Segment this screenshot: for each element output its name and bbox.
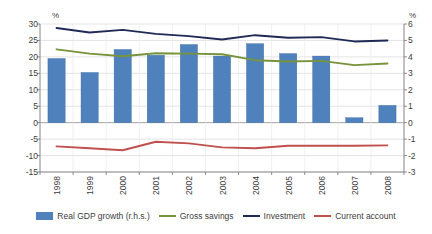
x-axis-tick-1999: 1999 xyxy=(85,176,95,195)
legend-line-swatch-icon xyxy=(314,215,331,217)
bar-2003 xyxy=(213,56,230,123)
legend-label: Real GDP growth (r.h.s.) xyxy=(57,211,149,221)
legend-label: Investment xyxy=(264,211,306,221)
legend-line-swatch-icon xyxy=(243,215,260,217)
legend-item-investment[interactable]: Investment xyxy=(243,211,306,221)
y2-axis-tick-6: 6 xyxy=(408,20,430,28)
y2-axis-tick-1: 1 xyxy=(408,102,430,110)
chart-plot-area xyxy=(0,0,432,234)
bar-1999 xyxy=(81,73,98,123)
x-axis-tick-2001: 2001 xyxy=(151,176,161,195)
legend-item-current-account[interactable]: Current account xyxy=(314,211,395,221)
x-axis-tick-2003: 2003 xyxy=(218,176,228,195)
legend-item-gross-savings[interactable]: Gross savings xyxy=(159,211,234,221)
bar-2000 xyxy=(114,49,131,122)
bar-series-real-gdp-growth xyxy=(48,44,396,123)
x-axis-tick-2007: 2007 xyxy=(350,176,360,195)
y2-axis-tick-3: 3 xyxy=(408,69,430,77)
x-axis-tick-2004: 2004 xyxy=(251,176,261,195)
y-axis-tick-neg15: -15 xyxy=(16,168,38,176)
y2-axis-tick-0: 0 xyxy=(408,119,430,127)
y-axis-tick-5: 5 xyxy=(16,102,38,110)
y2-axis-tick-4: 4 xyxy=(408,53,430,61)
bar-2008 xyxy=(379,105,396,122)
x-axis-tick-2002: 2002 xyxy=(184,176,194,195)
legend-line-swatch-icon xyxy=(159,215,176,217)
chart-container: % % 302520151050-5-10-156543210-1-2-3 19… xyxy=(0,0,432,234)
y-axis-tick-10: 10 xyxy=(16,86,38,94)
y-axis-tick-30: 30 xyxy=(16,20,38,28)
chart-legend: Real GDP growth (r.h.s.)Gross savingsInv… xyxy=(0,204,432,228)
bar-1998 xyxy=(48,59,65,123)
bar-2004 xyxy=(246,44,263,123)
y2-axis-tick-5: 5 xyxy=(408,36,430,44)
y-axis-tick-0: 0 xyxy=(16,119,38,127)
y2-axis-tick-neg1: -1 xyxy=(408,135,430,143)
x-axis-tick-2008: 2008 xyxy=(383,176,393,195)
y-axis-tick-15: 15 xyxy=(16,69,38,77)
x-axis-tick-2000: 2000 xyxy=(118,176,128,195)
bar-2001 xyxy=(147,55,164,122)
bar-2005 xyxy=(280,54,297,123)
legend-bar-swatch-icon xyxy=(36,212,53,220)
y-axis-tick-neg10: -10 xyxy=(16,152,38,160)
bar-2002 xyxy=(180,45,197,123)
x-axis-tick-1998: 1998 xyxy=(52,176,62,195)
x-axis-tick-2005: 2005 xyxy=(284,176,294,195)
bar-2007 xyxy=(346,118,363,123)
y-axis-tick-25: 25 xyxy=(16,36,38,44)
legend-item-real-gdp-growth-r-h-s[interactable]: Real GDP growth (r.h.s.) xyxy=(36,211,149,221)
y2-axis-tick-neg3: -3 xyxy=(408,168,430,176)
legend-label: Current account xyxy=(335,211,395,221)
y-axis-tick-20: 20 xyxy=(16,53,38,61)
bar-2006 xyxy=(313,56,330,123)
y-axis-tick-neg5: -5 xyxy=(16,135,38,143)
x-axis-tick-2006: 2006 xyxy=(317,176,327,195)
y2-axis-tick-neg2: -2 xyxy=(408,152,430,160)
left-axis-unit-label: % xyxy=(52,11,59,20)
legend-label: Gross savings xyxy=(180,211,234,221)
y2-axis-tick-2: 2 xyxy=(408,86,430,94)
